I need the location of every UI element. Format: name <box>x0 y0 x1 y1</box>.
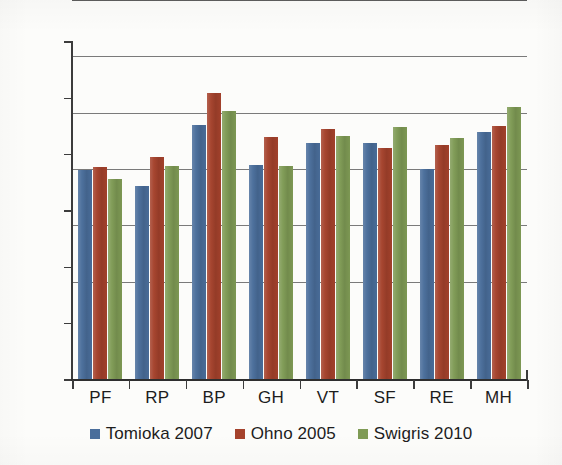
bar-mh-series-3 <box>507 107 521 380</box>
bar-bp-series-2 <box>207 93 221 380</box>
y-axis-tick <box>64 210 72 212</box>
legend-label: Tomioka 2007 <box>106 424 213 444</box>
x-axis-label-rp: RP <box>127 388 187 408</box>
legend-item-1: Tomioka 2007 <box>90 424 213 444</box>
bar-rp-series-1 <box>135 186 149 380</box>
bar-bp-series-1 <box>192 125 206 380</box>
y-axis-tick <box>64 323 72 325</box>
x-axis-label-sf: SF <box>355 388 415 408</box>
bar-rp-series-2 <box>150 157 164 380</box>
legend-label: Ohno 2005 <box>251 424 336 444</box>
bar-vt-series-1 <box>306 143 320 380</box>
bar-mh-series-1 <box>477 132 491 380</box>
legend-item-2: Ohno 2005 <box>235 424 336 444</box>
legend-swatch-icon <box>90 429 100 439</box>
legend-label: Swigris 2010 <box>374 424 473 444</box>
bar-pf-series-2 <box>93 167 107 380</box>
legend-swatch-icon <box>235 429 245 439</box>
bar-gh-series-1 <box>249 165 263 380</box>
plot-area <box>72 42 527 380</box>
chart-legend: Tomioka 2007Ohno 2005Swigris 2010 <box>0 424 562 444</box>
bar-sf-series-2 <box>378 148 392 380</box>
x-axis-label-pf: PF <box>70 388 130 408</box>
gridline <box>72 0 527 1</box>
legend-item-3: Swigris 2010 <box>358 424 473 444</box>
bar-re-series-1 <box>420 169 434 380</box>
y-axis-tick <box>64 41 72 43</box>
bar-gh-series-2 <box>264 137 278 380</box>
bar-rp-series-3 <box>165 166 179 380</box>
bar-vt-series-2 <box>321 129 335 380</box>
bar-group-re <box>420 42 464 380</box>
x-axis-label-gh: GH <box>241 388 301 408</box>
bar-re-series-3 <box>450 138 464 380</box>
bar-group-mh <box>477 42 521 380</box>
x-axis-label-bp: BP <box>184 388 244 408</box>
y-axis-tick <box>64 267 72 269</box>
bar-sf-series-1 <box>363 143 377 380</box>
x-axis-label-mh: MH <box>469 388 529 408</box>
x-axis-label-re: RE <box>412 388 472 408</box>
bar-gh-series-3 <box>279 166 293 380</box>
bar-group-rp <box>135 42 179 380</box>
bar-re-series-2 <box>435 145 449 380</box>
bar-group-bp <box>192 42 236 380</box>
y-axis-tick <box>64 154 72 156</box>
bar-sf-series-3 <box>393 127 407 380</box>
bar-group-pf <box>78 42 122 380</box>
x-axis-label-vt: VT <box>298 388 358 408</box>
bar-pf-series-1 <box>78 170 92 380</box>
bar-group-gh <box>249 42 293 380</box>
legend-swatch-icon <box>358 429 368 439</box>
bar-bp-series-3 <box>222 111 236 380</box>
bar-mh-series-2 <box>492 126 506 380</box>
bar-pf-series-3 <box>108 179 122 380</box>
bar-vt-series-3 <box>336 136 350 380</box>
bar-group-sf <box>363 42 407 380</box>
bar-group-vt <box>306 42 350 380</box>
y-axis-tick <box>64 98 72 100</box>
bar-chart: 6050403020100 PFRPBPGHVTSFREMH Tomioka 2… <box>0 0 562 465</box>
